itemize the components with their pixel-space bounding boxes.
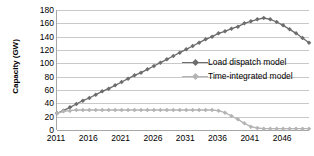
- series-marker: [139, 70, 144, 75]
- series-marker: [158, 108, 163, 113]
- series-marker: [158, 60, 163, 65]
- y-tick-label: 20: [45, 112, 54, 122]
- series-marker: [113, 83, 118, 88]
- series-marker: [126, 108, 131, 113]
- series-marker: [152, 64, 157, 69]
- series-marker: [74, 108, 79, 113]
- series-marker: [119, 80, 124, 85]
- series-marker: [197, 108, 202, 113]
- legend-item[interactable]: Load dispatch model: [182, 58, 293, 67]
- series-marker: [100, 89, 105, 94]
- series-marker: [145, 67, 150, 72]
- series-marker: [184, 108, 189, 113]
- y-tick-label: 180: [40, 5, 54, 15]
- legend-marker-icon: [182, 58, 208, 67]
- series-marker: [119, 108, 124, 113]
- series-marker: [165, 57, 170, 62]
- series-marker: [113, 108, 118, 113]
- x-tick-label: 2021: [111, 133, 130, 143]
- y-tick-label: 160: [40, 18, 54, 28]
- series-marker: [87, 96, 92, 101]
- series-marker: [216, 31, 221, 36]
- series-marker: [152, 108, 157, 113]
- series-marker: [132, 73, 137, 78]
- series-marker: [216, 108, 221, 113]
- series-marker: [223, 110, 228, 115]
- y-tick-label: 100: [40, 58, 54, 68]
- series-marker: [171, 54, 176, 59]
- series-marker: [242, 21, 247, 26]
- series-marker: [74, 102, 79, 107]
- y-tick-label: 40: [45, 98, 54, 108]
- series-marker: [229, 26, 234, 31]
- series-marker: [94, 92, 99, 97]
- legend-item-label: Load dispatch model: [208, 58, 286, 67]
- x-tick-label: 2011: [47, 133, 65, 143]
- x-tick-label: 2026: [143, 133, 162, 143]
- series-marker: [229, 114, 234, 119]
- series-marker: [184, 47, 189, 52]
- series-marker: [106, 108, 111, 113]
- series-marker: [171, 108, 176, 113]
- series-marker: [268, 17, 273, 22]
- legend-item-label: Time-integrated model: [208, 72, 293, 81]
- series-marker: [203, 37, 208, 42]
- series-marker: [262, 16, 267, 21]
- series-marker: [210, 108, 215, 113]
- series-marker: [203, 108, 208, 113]
- y-tick-label: 60: [45, 85, 54, 95]
- chart-legend: Load dispatch modelTime-integrated model: [182, 58, 293, 81]
- series-marker: [197, 40, 202, 45]
- series-marker: [223, 29, 228, 34]
- series-marker: [249, 19, 254, 24]
- series-marker: [236, 24, 241, 29]
- x-tick-label: 2046: [273, 133, 292, 143]
- series-marker: [274, 20, 279, 25]
- series-marker: [100, 108, 105, 113]
- x-tick-label: 2036: [208, 133, 227, 143]
- series-marker: [81, 108, 86, 113]
- series-line: [57, 110, 309, 129]
- series-marker: [132, 108, 137, 113]
- series-marker: [139, 108, 144, 113]
- legend-item[interactable]: Time-integrated model: [182, 72, 293, 81]
- x-tick-label: 2041: [240, 133, 259, 143]
- series-marker: [255, 17, 260, 22]
- x-axis-tick-labels: 20112016202120262031203620412046: [56, 131, 308, 151]
- series-marker: [94, 108, 99, 113]
- capacity-line-chart: Capacity (GW) 020406080100120140160180 2…: [0, 0, 314, 156]
- series-marker: [87, 108, 92, 113]
- series-marker: [55, 111, 60, 116]
- y-tick-label: 140: [40, 32, 54, 42]
- series-marker: [178, 108, 183, 113]
- series-marker: [210, 34, 215, 39]
- y-axis-title: Capacity (GW): [11, 21, 20, 113]
- series-marker: [126, 76, 131, 81]
- y-tick-label: 80: [45, 72, 54, 82]
- series-marker: [68, 108, 73, 113]
- series-marker: [145, 108, 150, 113]
- series-marker: [81, 98, 86, 103]
- x-tick-label: 2031: [176, 133, 195, 143]
- series-marker: [178, 50, 183, 55]
- series-marker: [190, 108, 195, 113]
- series-marker: [255, 126, 260, 131]
- series-marker: [165, 108, 170, 113]
- legend-marker-icon: [182, 72, 208, 81]
- series-marker: [249, 124, 254, 129]
- series-marker: [190, 44, 195, 49]
- y-tick-label: 120: [40, 45, 54, 55]
- series-marker: [106, 86, 111, 91]
- x-tick-label: 2016: [79, 133, 98, 143]
